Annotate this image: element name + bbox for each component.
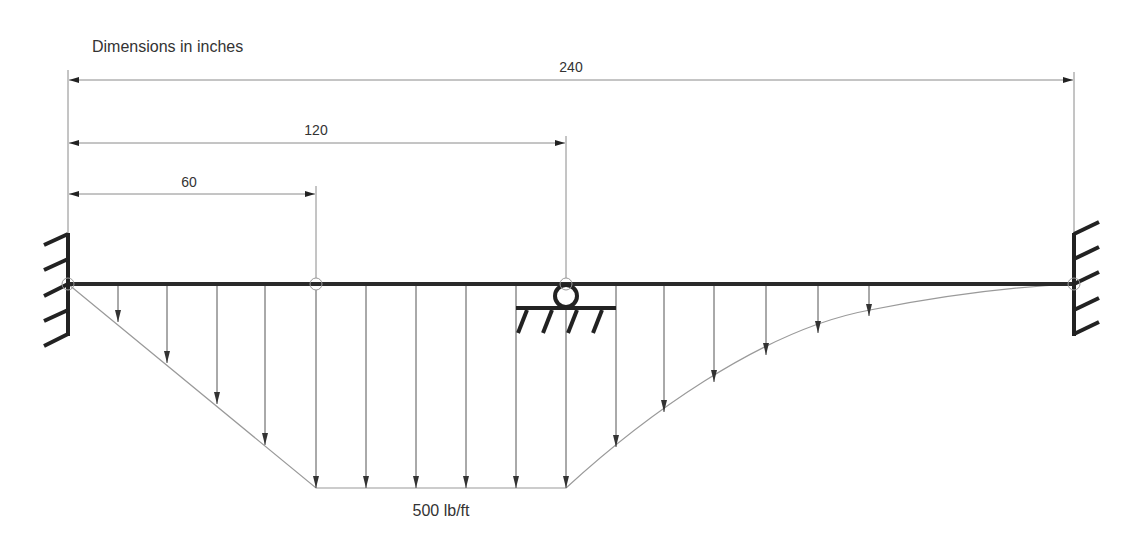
load-label: 500 lb/ft <box>413 502 470 519</box>
dimension-120: 120 <box>69 122 565 143</box>
load-arrows <box>118 286 869 488</box>
dimension-label-120: 120 <box>304 122 328 138</box>
beam-diagram: Dimensions in inches 240 120 60 <box>0 0 1134 550</box>
diagram-title: Dimensions in inches <box>92 38 243 55</box>
extension-lines <box>68 70 1074 280</box>
dimension-label-240: 240 <box>559 59 583 75</box>
left-fixed-support-icon <box>44 233 68 346</box>
dimension-60: 60 <box>69 174 315 194</box>
dimension-label-60: 60 <box>181 174 197 190</box>
load-envelope <box>68 284 1074 488</box>
dimension-240: 240 <box>69 59 1073 80</box>
